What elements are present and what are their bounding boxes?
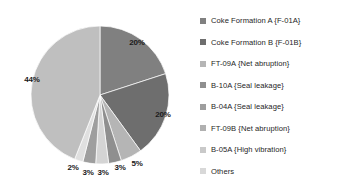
legend-swatch-icon [200,125,206,131]
legend-swatch-icon [200,39,206,45]
pie-slice-data-label: 20% [155,110,170,119]
pie-chart-figure: 20%20%5%3%3%3%2%44% Coke Formation A {F-… [0,0,340,190]
legend-item-label: B-04A {Seal leakage} [211,102,284,111]
legend-item[interactable]: B-10A {Seal leakage} [200,75,340,97]
pie-slice-data-label: 3% [114,163,125,172]
legend-item-label: FT-09B {Net abruption} [211,124,290,133]
legend-item-label: Coke Formation A {F-01A} [211,16,300,25]
legend-swatch-icon [200,18,206,24]
legend-swatch-icon [200,104,206,110]
legend-swatch-icon [200,82,206,88]
pie-slice-data-label: 44% [24,75,39,84]
legend-item-label: Coke Formation B {F-01B} [211,38,301,47]
pie-slice-data-label: 3% [97,168,108,177]
legend-item[interactable]: FT-09B {Net abruption} [200,118,340,140]
pie-slice-group [31,26,169,164]
legend-item[interactable]: B-04A {Seal leakage} [200,96,340,118]
legend-item-label: FT-09A {Net abruption} [211,59,289,68]
chart-legend: Coke Formation A {F-01A}Coke Formation B… [200,10,340,190]
pie-slice-data-label: 20% [129,38,144,47]
legend-item[interactable]: Coke Formation B {F-01B} [200,32,340,54]
pie-slice-data-label: 3% [82,168,93,177]
legend-item-label: B-05A {High vibration} [211,145,286,154]
legend-item[interactable]: Coke Formation A {F-01A} [200,10,340,32]
legend-item[interactable]: B-05A {High vibration} [200,139,340,161]
pie-svg [0,0,190,190]
pie-plot-area: 20%20%5%3%3%3%2%44% [0,0,190,190]
legend-item[interactable]: Others [200,161,340,183]
pie-slice-data-label: 5% [131,159,142,168]
pie-slice-data-label: 2% [67,163,78,172]
legend-swatch-icon [200,147,206,153]
legend-swatch-icon [200,61,206,67]
legend-swatch-icon [200,168,206,174]
legend-item-label: B-10A {Seal leakage} [211,81,284,90]
legend-item[interactable]: FT-09A {Net abruption} [200,53,340,75]
legend-item-label: Others [211,167,234,176]
